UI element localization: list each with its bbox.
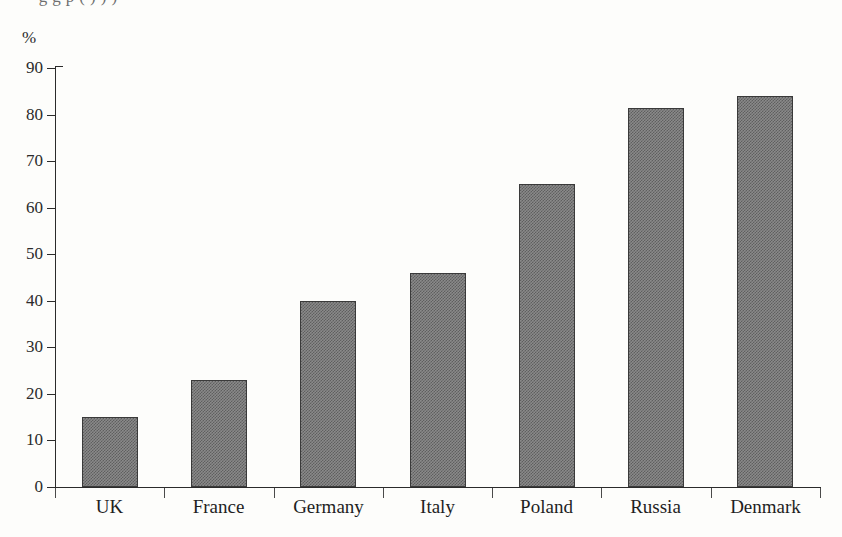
x-label-poland: Poland [492,496,601,518]
y-tick-mark [47,394,56,395]
bar-uk [82,417,138,487]
x-label-france: France [164,496,273,518]
y-tick-mark [47,301,56,302]
x-label-denmark: Denmark [711,496,820,518]
y-tick-label: 70 [9,151,43,171]
bar-denmark [737,96,793,487]
y-tick-mark [47,68,56,69]
y-tick-label: 40 [9,291,43,311]
y-tick-label: 90 [9,58,43,78]
bar-russia [628,108,684,487]
y-tick-label: 0 [9,477,43,497]
y-tick-mark [47,440,56,441]
x-label-uk: UK [55,496,164,518]
y-tick-mark [47,347,56,348]
y-tick-label: 50 [9,244,43,264]
y-axis-top-cap [55,66,63,67]
y-tick-label: 20 [9,384,43,404]
bar-france [191,380,247,487]
x-label-russia: Russia [601,496,710,518]
bar-poland [519,184,575,487]
y-tick-label: 60 [9,198,43,218]
x-label-germany: Germany [274,496,383,518]
figure-canvas: · g g p ( ) ) ) % 0102030405060708090 UK… [0,0,842,537]
bar-italy [410,273,466,487]
y-tick-label: 80 [9,105,43,125]
y-tick-mark [47,115,56,116]
y-axis-line [55,66,56,488]
y-tick-label: 30 [9,337,43,357]
y-tick-mark [47,254,56,255]
bar-germany [300,301,356,487]
x-label-italy: Italy [383,496,492,518]
y-tick-mark [47,161,56,162]
bar-chart: % 0102030405060708090 UKFranceGermanyIta… [0,0,842,537]
y-tick-mark [47,208,56,209]
y-axis-unit-label: % [22,28,36,48]
x-axis-line [55,487,820,488]
y-tick-label: 10 [9,430,43,450]
x-tick-mark [820,488,821,498]
